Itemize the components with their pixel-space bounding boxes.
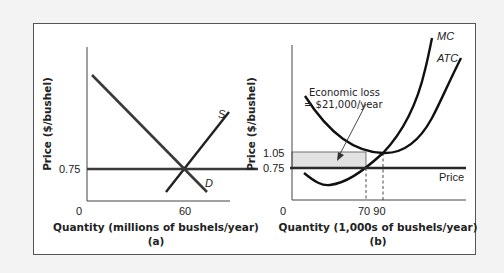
x-axis-title-a: Quantity (millions of bushels/year) [53,221,259,233]
atc-label: ATC [436,52,458,64]
origin-a: 0 [76,205,82,217]
supply-label: S [218,108,226,120]
demand-curve [92,75,207,192]
y-tick-0-75-a: 0.75 [59,163,80,175]
panel-a: S D 0.75 0 60 Quantity (millions of bush… [41,47,259,247]
y-tick-1-05: 1.05 [263,147,284,159]
y-axis-title-b: Price ($/bushel) [245,77,257,171]
loss-annotation-line2: = $21,000/year [304,99,383,110]
panel-b: MC ATC Price Economic loss = $21,000/yea… [245,30,478,247]
demand-label: D [205,177,213,189]
economics-chart: S D 0.75 0 60 Quantity (millions of bush… [0,0,504,273]
panel-label-b: (b) [369,235,386,247]
origin-b: 0 [280,205,286,217]
x-axis-title-b: Quantity (1,000s of bushels/year) [278,221,477,233]
panel-label-a: (a) [148,235,165,247]
mc-label: MC [437,30,454,42]
x-tick-60: 60 [179,205,191,217]
price-label: Price [439,171,464,183]
y-tick-0-75-b: 0.75 [263,162,284,174]
y-axis-title-a: Price ($/bushel) [41,77,53,171]
economic-loss-area [292,152,366,168]
loss-annotation-line1: Economic loss [309,87,380,98]
x-tick-70-90: 70 90 [358,205,386,217]
loss-arrow [340,104,366,154]
supply-curve [166,112,229,192]
